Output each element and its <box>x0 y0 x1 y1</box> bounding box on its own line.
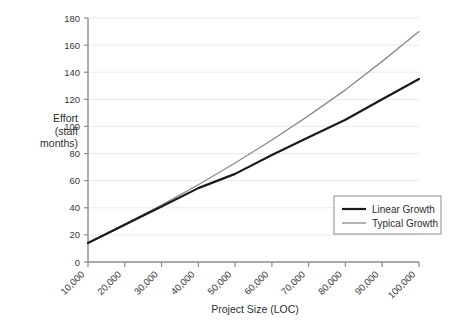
y-axis-tick-label: 180 <box>64 13 80 24</box>
y-axis-tick-label: 0 <box>75 257 80 268</box>
y-axis-tick-label: 100 <box>64 121 80 132</box>
y-axis-tick-label: 40 <box>69 202 80 213</box>
x-axis-ticks <box>88 262 419 267</box>
x-axis-tick-label: 70,000 <box>279 269 307 297</box>
x-axis-tick-label: 30,000 <box>132 269 160 297</box>
chart-container: Effort (staff months) 020406080100120140… <box>0 0 459 328</box>
x-axis-tick-label: 20,000 <box>95 269 123 297</box>
x-axis-tick-label: 50,000 <box>205 269 233 297</box>
x-axis-tick-label: 80,000 <box>316 269 344 297</box>
x-axis-tick-label: 90,000 <box>352 269 380 297</box>
x-axis-tick-label: 40,000 <box>168 269 196 297</box>
y-axis-tick-label: 20 <box>69 229 80 240</box>
x-axis-tick-label: 100,000 <box>385 269 417 301</box>
y-axis-tick-label: 80 <box>69 148 80 159</box>
y-axis-tick-label: 120 <box>64 94 80 105</box>
chart-plot: 020406080100120140160180 10,00020,00030,… <box>0 0 459 328</box>
x-axis-title: Project Size (LOC) <box>211 303 299 315</box>
x-axis-tick-label: 10,000 <box>58 269 86 297</box>
y-axis-tick-labels: 020406080100120140160180 <box>64 13 80 268</box>
x-axis-tick-label: 60,000 <box>242 269 270 297</box>
legend-label-linear-growth: Linear Growth <box>372 204 435 215</box>
y-axis-tick-label: 160 <box>64 40 80 51</box>
x-axis-tick-labels: 10,00020,00030,00040,00050,00060,00070,0… <box>58 269 417 301</box>
y-axis-tick-label: 140 <box>64 67 80 78</box>
y-axis-tick-label: 60 <box>69 175 80 186</box>
legend-label-typical-growth: Typical Growth <box>372 218 438 229</box>
legend: Linear Growth Typical Growth <box>334 196 441 234</box>
